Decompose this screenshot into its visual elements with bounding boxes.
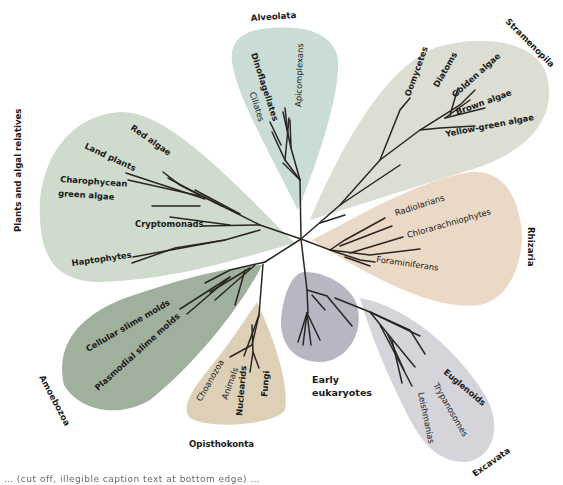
figure-caption-cutoff: … (cut off, illegible caption text at bo…: [4, 474, 559, 485]
region-early-eukaryotes: [281, 272, 359, 362]
group-label-early-eukaryotes-line2: eukaryotes: [312, 387, 372, 398]
taxon-cryptomonads: Cryptomonads: [135, 219, 204, 229]
group-label-rhizaria: Rhizaria: [526, 227, 536, 267]
group-label-early-eukaryotes-line1: Early: [312, 374, 340, 385]
group-label-plants: Plants and algal relatives: [13, 109, 23, 232]
group-label-alveolata: Alveolata: [250, 10, 296, 23]
phylogenetic-tree-diagram: Alveolata Dinoflagellates Apicomplexans …: [0, 0, 563, 485]
group-label-opisthokonta: Opisthokonta: [189, 439, 254, 449]
